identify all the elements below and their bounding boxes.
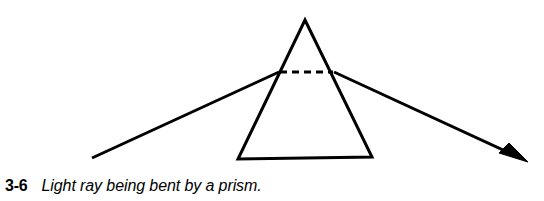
figure-caption-number: 3-6 (5, 178, 28, 194)
figure-caption-text: Light ray being bent by a prism. (42, 178, 262, 194)
figure-3-6: 3-6 Light ray being bent by a prism. (0, 0, 544, 201)
ray-arrowhead-icon (499, 143, 528, 162)
refracted-ray-line (334, 72, 514, 155)
incident-ray-line (92, 72, 279, 158)
prism-triangle (238, 20, 372, 159)
prism-ray-diagram (0, 0, 544, 170)
figure-caption: 3-6 Light ray being bent by a prism. (0, 170, 544, 201)
